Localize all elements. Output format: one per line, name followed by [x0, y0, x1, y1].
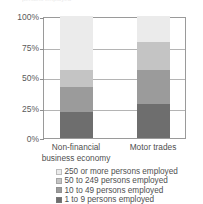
category-label-line: Non-financial — [37, 142, 115, 153]
legend-item-label: 250 or more persons employed — [65, 167, 178, 176]
legend-item-label: 10 to 49 persons employed — [65, 186, 164, 195]
plot-area — [43, 17, 186, 139]
legend-swatch-icon — [56, 169, 62, 175]
chart-figure: persons employed 100%75%50%25%0% Non-fin… — [0, 0, 203, 204]
y-axis-tick-label: 25% — [1, 105, 39, 114]
category-label-line: Motor trades — [114, 142, 192, 153]
x-axis-category-label: Motor trades — [114, 142, 192, 153]
bar-stack-non-financial-business-economy[interactable] — [60, 16, 93, 138]
bar-segment[interactable] — [60, 112, 93, 138]
legend-item[interactable]: 250 or more persons employed — [56, 167, 203, 176]
y-axis-tick-label: 75% — [1, 44, 39, 53]
x-axis-category-labels: Non-financialbusiness economyMotor trade… — [43, 142, 186, 166]
y-axis-tick-label: 100% — [1, 13, 39, 22]
legend-swatch-icon — [56, 178, 62, 184]
chart-legend: 250 or more persons employed50 to 249 pe… — [56, 167, 203, 204]
bar-segment[interactable] — [137, 104, 170, 138]
legend-item[interactable]: 50 to 249 persons employed — [56, 176, 203, 185]
bar-segment[interactable] — [137, 42, 170, 70]
bar-stack-motor-trades[interactable] — [137, 16, 170, 138]
legend-item[interactable]: 10 to 49 persons employed — [56, 186, 203, 195]
legend-item-label: 50 to 249 persons employed — [65, 176, 168, 185]
bar-segment[interactable] — [137, 16, 170, 42]
y-axis-tick-label: 50% — [1, 74, 39, 83]
y-axis-labels: 100%75%50%25%0% — [0, 17, 39, 139]
legend-item-label: 1 to 9 persons employed — [65, 195, 155, 204]
clipped-caption-remnant: persons employed — [22, 0, 172, 2]
bar-segment[interactable] — [60, 87, 93, 113]
legend-item[interactable]: 1 to 9 persons employed — [56, 195, 203, 204]
x-axis-category-label: Non-financialbusiness economy — [37, 142, 115, 164]
bar-segment[interactable] — [137, 70, 170, 104]
y-axis-tick-label: 0% — [1, 135, 39, 144]
bar-segment[interactable] — [60, 70, 93, 87]
legend-swatch-icon — [56, 187, 62, 193]
bar-segment[interactable] — [60, 16, 93, 70]
y-axis-tick-mark — [40, 18, 44, 19]
category-label-line: business economy — [37, 153, 115, 164]
legend-swatch-icon — [56, 197, 62, 203]
y-axis-tick-mark — [40, 139, 44, 140]
